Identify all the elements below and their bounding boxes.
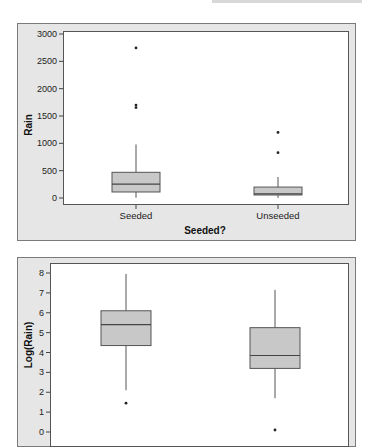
top-y-axis-title: Rain	[23, 114, 34, 136]
top-category-seeded: Seeded	[120, 210, 153, 221]
bottom-y-axis-title: Log(Rain)	[23, 322, 34, 369]
top-category-unseeded: Unseeded	[256, 210, 299, 221]
top-x-axis-title: Seeded?	[184, 225, 226, 236]
